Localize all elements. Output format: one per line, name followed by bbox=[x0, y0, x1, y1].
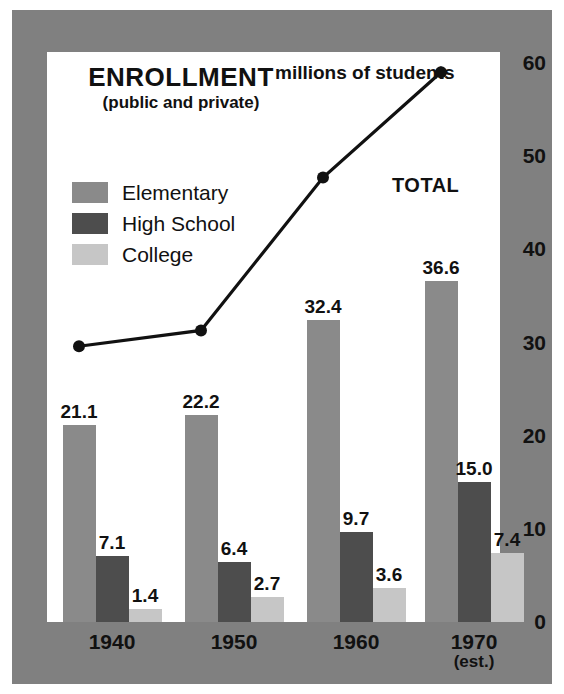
y-tick-label: 10 bbox=[506, 517, 546, 541]
y-tick-label: 0 bbox=[506, 610, 546, 634]
total-line-marker bbox=[317, 172, 329, 184]
plot-panel: ENROLLMENT (public and private) millions… bbox=[47, 52, 500, 622]
y-tick-label: 20 bbox=[506, 424, 546, 448]
x-tick-label-1970: 1970(est.) bbox=[451, 631, 498, 671]
total-line bbox=[79, 72, 441, 346]
x-tick-year: 1960 bbox=[333, 630, 380, 653]
total-line-marker bbox=[195, 324, 207, 336]
chart-poster: ENROLLMENT (public and private) millions… bbox=[0, 0, 564, 694]
y-tick-label: 40 bbox=[506, 237, 546, 261]
total-line-marker bbox=[73, 340, 85, 352]
y-tick-label: 60 bbox=[506, 51, 546, 75]
x-tick-year: 1970 bbox=[451, 630, 498, 653]
total-line-layer bbox=[47, 52, 500, 622]
x-tick-label-1960: 1960 bbox=[333, 631, 380, 653]
y-axis: 0102030405060 bbox=[506, 52, 552, 622]
x-tick-year: 1940 bbox=[89, 630, 136, 653]
y-tick-label: 30 bbox=[506, 331, 546, 355]
plot-area: ENROLLMENT (public and private) millions… bbox=[47, 52, 500, 622]
x-tick-label-1950: 1950 bbox=[211, 631, 258, 653]
y-tick-label: 50 bbox=[506, 144, 546, 168]
x-tick-sublabel: (est.) bbox=[451, 653, 498, 671]
x-tick-year: 1950 bbox=[211, 630, 258, 653]
x-tick-label-1940: 1940 bbox=[89, 631, 136, 653]
total-line-marker bbox=[435, 66, 447, 78]
